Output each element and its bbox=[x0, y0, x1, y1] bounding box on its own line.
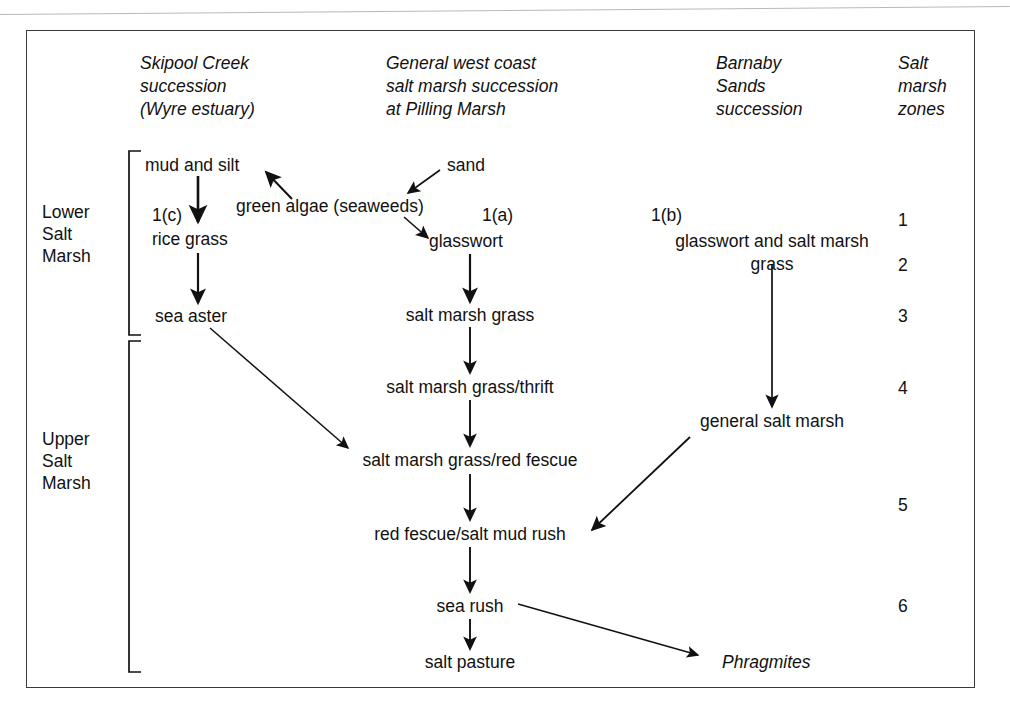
node-salt-marsh-grass: salt marsh grass bbox=[406, 305, 534, 326]
zone-number-2: 2 bbox=[898, 255, 908, 276]
node-glasswort-and-salt-marsh-grass: glasswort and salt marsh grass bbox=[675, 230, 869, 276]
node-salt-pasture: salt pasture bbox=[425, 652, 515, 673]
node-salt-marsh-grass-thrift: salt marsh grass/thrift bbox=[386, 377, 553, 398]
node-green-algae: green algae (seaweeds) bbox=[236, 196, 424, 217]
side-label-lower-salt-marsh: Lower Salt Marsh bbox=[42, 201, 91, 267]
succession-tag-1a: 1(a) bbox=[482, 205, 513, 226]
zone-number-3: 3 bbox=[898, 306, 908, 327]
succession-tag-1c: 1(c) bbox=[152, 205, 182, 226]
zone-number-4: 4 bbox=[898, 378, 908, 399]
node-sea-aster: sea aster bbox=[155, 306, 227, 327]
node-sea-rush: sea rush bbox=[436, 596, 503, 617]
zone-number-5: 5 bbox=[898, 495, 908, 516]
zone-number-1: 1 bbox=[898, 210, 908, 231]
node-glasswort: glasswort bbox=[429, 231, 503, 252]
node-salt-marsh-grass-red-fescue: salt marsh grass/red fescue bbox=[363, 450, 578, 471]
zone-number-6: 6 bbox=[898, 596, 908, 617]
node-phragmites: Phragmites bbox=[722, 652, 811, 673]
node-sand: sand bbox=[447, 155, 485, 176]
side-label-upper-salt-marsh: Upper Salt Marsh bbox=[42, 428, 91, 494]
column-header-salt-marsh-zones: Salt marsh zones bbox=[898, 52, 947, 121]
scan-artifact-line bbox=[0, 6, 1010, 15]
node-mud-and-silt: mud and silt bbox=[145, 155, 239, 176]
diagram-page: Skipool Creek succession (Wyre estuary) … bbox=[0, 0, 1010, 727]
node-rice-grass: rice grass bbox=[152, 229, 228, 250]
column-header-pilling-marsh: General west coast salt marsh succession… bbox=[386, 52, 558, 121]
column-header-barnaby-sands: Barnaby Sands succession bbox=[716, 52, 803, 121]
diagram-frame-border bbox=[26, 30, 975, 688]
node-red-fescue-salt-mud-rush: red fescue/salt mud rush bbox=[374, 524, 566, 545]
column-header-skipool-creek: Skipool Creek succession (Wyre estuary) bbox=[140, 52, 255, 121]
succession-tag-1b: 1(b) bbox=[651, 205, 682, 226]
node-general-salt-marsh: general salt marsh bbox=[700, 411, 844, 432]
